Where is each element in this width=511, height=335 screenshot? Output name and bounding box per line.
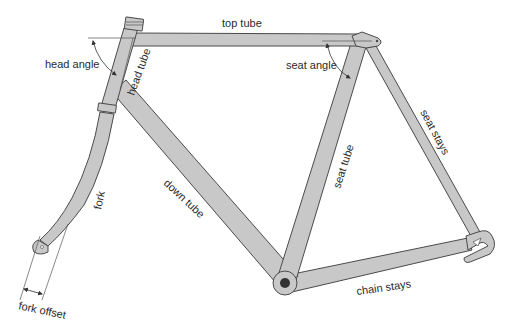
label-top-tube: top tube bbox=[222, 17, 262, 29]
top-tube bbox=[132, 33, 370, 46]
headset-top bbox=[124, 17, 143, 31]
seat-cluster bbox=[352, 32, 381, 48]
bicycle-frame-diagram: top tube head angle head tube seat angle… bbox=[0, 0, 511, 335]
label-fork: fork bbox=[91, 189, 107, 210]
bottom-bracket bbox=[273, 271, 297, 295]
seat-tube bbox=[278, 40, 368, 280]
rear-dropout bbox=[464, 231, 495, 263]
fork-offset-indicator bbox=[20, 224, 68, 300]
label-head-angle: head angle bbox=[45, 58, 99, 70]
fork bbox=[33, 112, 114, 254]
label-chain-stays: chain stays bbox=[356, 277, 413, 297]
seat-stays bbox=[366, 46, 480, 238]
down-tube bbox=[112, 80, 298, 290]
label-fork-offset: fork offset bbox=[18, 299, 68, 321]
label-seat-angle: seat angle bbox=[286, 59, 337, 71]
